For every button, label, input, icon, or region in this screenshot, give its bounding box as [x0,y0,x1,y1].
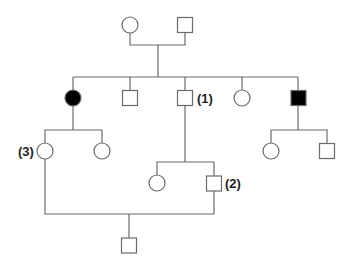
individual-II-2-male [123,91,138,106]
label-2: (2) [225,176,241,191]
individual-III-2-female [94,143,110,159]
connector-lines [45,33,327,238]
individual-III-1-female [37,143,53,159]
label-3: (3) [18,144,34,159]
individual-II-3-male [178,91,193,106]
individual-III-5-female [263,143,279,159]
individual-II-1-female-affected [65,90,81,106]
individual-I-1-female [122,17,138,33]
individual-IV-1-male [122,238,137,253]
individuals: (1) (3) (2) [18,17,335,253]
mating-line-I [130,33,185,45]
individual-II-5-male-affected [291,91,306,106]
sibship-line-III-a [45,130,102,143]
individual-II-4-female [234,90,250,106]
pedigree-diagram: (1) (3) (2) [0,0,355,270]
individual-III-4-male [207,176,222,191]
label-1: (1) [197,91,213,106]
individual-III-3-female [149,175,165,191]
mating-line-III [45,159,214,214]
sibship-line-III-b [157,162,214,176]
individual-I-2-male [178,18,193,33]
individual-III-6-male [320,144,335,159]
sibship-line-III-c [271,130,327,143]
